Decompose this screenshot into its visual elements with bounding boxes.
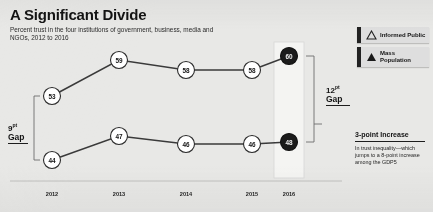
slide-canvas: A Significant Divide Percent trust in th… [0, 0, 433, 212]
data-label: 58 [182, 67, 190, 74]
gap-annotation-left: 9pt Gap [8, 121, 38, 144]
page-title: A Significant Divide [10, 6, 260, 23]
x-tick-2016: 2016 [283, 191, 295, 197]
gap-left-value: 9pt [8, 121, 38, 133]
gap-right-word: Gap [326, 95, 360, 104]
data-label-highlighted: 48 [285, 139, 293, 146]
data-label: 46 [182, 141, 190, 148]
data-label-highlighted: 60 [285, 53, 293, 60]
data-label: 44 [48, 157, 56, 164]
x-tick-2014: 2014 [180, 191, 192, 197]
gap-bracket-right-lower [306, 124, 314, 142]
legend-label-informed-public: Informed Public [380, 32, 425, 39]
gap-annotation-right: 12pt Gap [326, 83, 360, 106]
line-chart-svg: 53 59 58 58 60 44 47 46 46 [6, 38, 346, 188]
x-tick-2015: 2015 [246, 191, 258, 197]
gap-bracket-right [306, 56, 322, 124]
data-label: 46 [248, 141, 256, 148]
x-tick-2012: 2012 [46, 191, 58, 197]
data-label: 58 [248, 67, 256, 74]
data-label: 59 [115, 57, 123, 64]
x-tick-2013: 2013 [113, 191, 125, 197]
callout-title: 3-point Increase [355, 131, 429, 139]
gap-right-value: 12pt [326, 83, 360, 95]
legend-item-mass-population[interactable]: Mass Population [357, 47, 429, 67]
chart-legend: Informed Public Mass Population [357, 27, 429, 71]
legend-label-mass-population: Mass Population [380, 50, 427, 64]
chart-plot-area: 53 59 58 58 60 44 47 46 46 [6, 38, 346, 188]
filled-triangle-icon [365, 52, 378, 62]
callout-rule [355, 141, 425, 142]
markers-informed-public: 53 59 58 58 60 [44, 48, 298, 105]
markers-mass-population: 44 47 46 46 48 [44, 128, 298, 169]
hollow-triangle-icon [365, 30, 378, 40]
data-label: 53 [48, 93, 56, 100]
callout-body: In trust inequality—which jumps to a 8-p… [355, 145, 429, 165]
gap-right-rule [326, 105, 350, 107]
data-label: 47 [115, 133, 123, 140]
callout-block: 3-point Increase In trust inequality—whi… [355, 131, 429, 165]
gap-left-rule [8, 143, 28, 145]
gap-left-word: Gap [8, 133, 38, 142]
legend-item-informed-public[interactable]: Informed Public [357, 27, 429, 43]
